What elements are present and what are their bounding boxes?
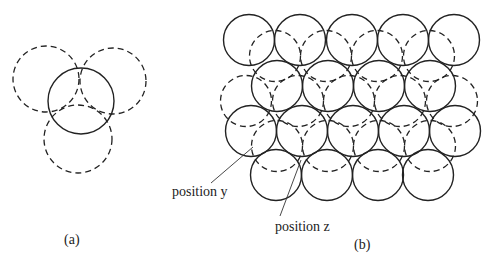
solid-sphere: [251, 150, 302, 201]
caption-a: (a): [64, 232, 80, 248]
solid-layer: [224, 15, 481, 201]
solid-sphere: [302, 150, 353, 201]
panel-b: position y position z (b): [172, 15, 481, 254]
solid-sphere-center: [48, 68, 114, 134]
label-position-z: position z: [275, 219, 330, 234]
leader-line-position-y: [211, 147, 253, 183]
caption-b: (b): [354, 237, 371, 253]
dashed-sphere-top-left: [13, 46, 79, 112]
panel-a: (a): [13, 46, 146, 248]
label-position-y: position y: [172, 184, 228, 199]
solid-sphere: [224, 15, 275, 66]
dashed-sphere-bottom: [44, 105, 112, 173]
dashed-sphere-top-right: [80, 48, 146, 114]
solid-sphere: [353, 150, 404, 201]
solid-sphere: [405, 61, 456, 112]
solid-sphere: [403, 150, 454, 201]
figure-canvas: (a) position y position z (b): [0, 0, 496, 261]
dashed-sphere: [427, 76, 478, 127]
